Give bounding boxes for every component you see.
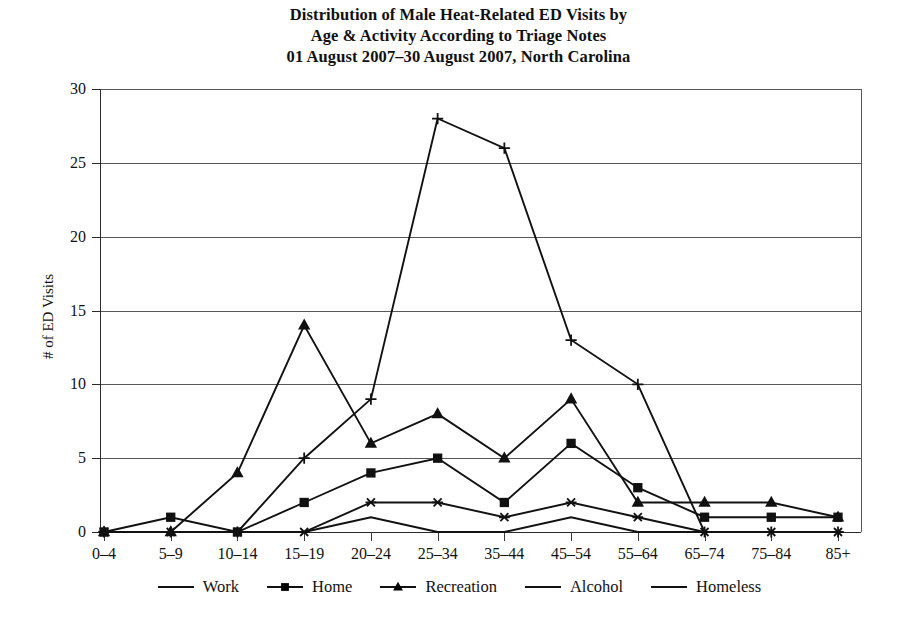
legend-item-work[interactable]: Work	[156, 578, 239, 596]
y-tick-mark	[92, 458, 101, 459]
chart-legend: WorkHomeRecreationAlcoholHomeless	[0, 578, 917, 596]
y-tick-mark	[92, 311, 101, 312]
chart-root: Distribution of Male Heat-Related ED Vis…	[0, 0, 917, 626]
y-tick-mark	[92, 237, 101, 238]
plot-right-edge	[861, 89, 862, 532]
chart-title: Distribution of Male Heat-Related ED Vis…	[0, 4, 917, 67]
x-tick-mark	[438, 532, 439, 541]
gridline	[101, 89, 861, 90]
legend-symbol-asterisk-icon	[523, 579, 563, 595]
gridline	[101, 163, 861, 164]
legend-symbol-triangle-icon	[378, 579, 418, 595]
chart-title-line-2: Age & Activity According to Triage Notes	[0, 25, 917, 46]
legend-label: Homeless	[696, 578, 761, 596]
y-tick-label: 30	[34, 81, 86, 97]
x-tick-mark	[237, 532, 238, 541]
legend-symbol-square-icon	[265, 579, 305, 595]
gridline	[101, 384, 861, 385]
x-tick-mark	[504, 532, 505, 541]
legend-label: Alcohol	[570, 578, 623, 596]
legend-marker-square-icon	[281, 583, 289, 591]
legend-item-recreation[interactable]: Recreation	[378, 578, 496, 596]
legend-symbol-plus-icon	[156, 579, 196, 595]
y-tick-label: 25	[34, 155, 86, 171]
legend-symbol-none-icon	[649, 579, 689, 595]
y-tick-mark	[92, 163, 101, 164]
y-tick-label: 5	[34, 450, 86, 466]
x-tick-mark	[571, 532, 572, 541]
x-tick-mark	[638, 532, 639, 541]
x-axis-line	[101, 532, 861, 533]
legend-label: Work	[203, 578, 239, 596]
gridline	[101, 458, 861, 459]
gridline	[101, 237, 861, 238]
y-tick-label: 15	[34, 303, 86, 319]
gridline	[101, 311, 861, 312]
y-tick-mark	[92, 384, 101, 385]
x-tick-mark	[371, 532, 372, 541]
legend-label: Recreation	[425, 578, 496, 596]
y-tick-mark	[92, 89, 101, 90]
y-tick-label: 0	[34, 524, 86, 540]
y-tick-mark	[92, 532, 101, 533]
y-tick-label: 20	[34, 229, 86, 245]
x-tick-mark	[705, 532, 706, 541]
x-tick-label: 85+	[790, 545, 886, 563]
x-tick-mark	[771, 532, 772, 541]
legend-item-alcohol[interactable]: Alcohol	[523, 578, 623, 596]
x-tick-mark	[304, 532, 305, 541]
plot-area	[100, 89, 860, 532]
x-tick-mark	[171, 532, 172, 541]
chart-title-line-1: Distribution of Male Heat-Related ED Vis…	[0, 4, 917, 25]
legend-item-homeless[interactable]: Homeless	[649, 578, 761, 596]
x-tick-mark	[838, 532, 839, 541]
x-tick-mark	[104, 532, 105, 541]
legend-label: Home	[312, 578, 352, 596]
chart-title-line-3: 01 August 2007–30 August 2007, North Car…	[0, 46, 917, 67]
y-tick-label: 10	[34, 376, 86, 392]
legend-item-home[interactable]: Home	[265, 578, 352, 596]
